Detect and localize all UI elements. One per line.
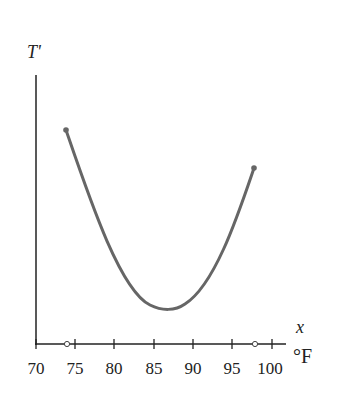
svg-text:95: 95 bbox=[224, 359, 241, 378]
chart: T' x °F 70 75 80 85 90 95 100 bbox=[0, 0, 337, 396]
x-axis-title: x bbox=[295, 317, 304, 337]
svg-text:90: 90 bbox=[185, 359, 202, 378]
svg-text:75: 75 bbox=[67, 359, 84, 378]
x-unit: °F bbox=[293, 345, 312, 367]
y-axis-title: T' bbox=[27, 42, 42, 62]
svg-text:80: 80 bbox=[106, 359, 123, 378]
svg-text:70: 70 bbox=[28, 359, 45, 378]
x-tick-labels: 70 75 80 85 90 95 100 bbox=[28, 359, 283, 378]
right-endpoint bbox=[251, 165, 257, 171]
svg-text:100: 100 bbox=[257, 359, 283, 378]
open-circle-98 bbox=[252, 341, 257, 346]
svg-text:85: 85 bbox=[146, 359, 163, 378]
derivative-curve bbox=[66, 130, 254, 309]
left-endpoint bbox=[63, 127, 69, 133]
open-circle-74 bbox=[64, 341, 69, 346]
